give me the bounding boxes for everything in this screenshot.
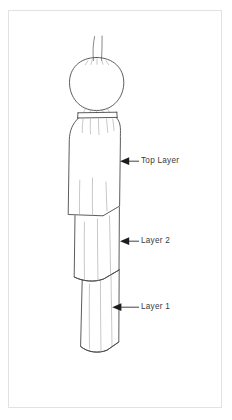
leader-top-layer xyxy=(120,157,139,165)
head-shape xyxy=(70,58,124,111)
head-top-gathers xyxy=(85,59,108,65)
hair-strands-icon xyxy=(93,36,102,61)
top-layer-neck-gathers xyxy=(82,119,114,135)
top-layer-shape xyxy=(68,118,120,216)
leader-layer-2 xyxy=(120,237,139,245)
label-layer-2: Layer 2 xyxy=(141,237,170,245)
layer-1-hem xyxy=(81,342,119,352)
leader-layer-1 xyxy=(112,303,139,311)
label-layer-1: Layer 1 xyxy=(141,303,170,311)
collar-band xyxy=(78,112,118,118)
layer-2-shape xyxy=(74,207,119,281)
layer-1-shape xyxy=(81,270,120,353)
annotation-leaders xyxy=(112,157,139,311)
garment-figure xyxy=(0,0,232,420)
layer-2-folds xyxy=(84,216,110,281)
layer-1-folds xyxy=(89,275,112,352)
top-layer-folds xyxy=(79,178,107,215)
illustration-canvas: Top Layer Layer 2 Layer 1 xyxy=(0,0,232,420)
label-top-layer: Top Layer xyxy=(141,157,179,165)
layer-2-hem xyxy=(74,270,119,281)
